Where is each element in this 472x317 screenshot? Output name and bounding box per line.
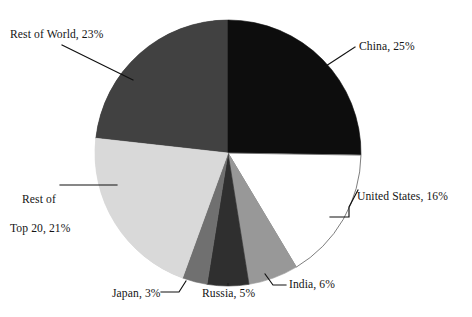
pie-label-rest-of-world: Rest of World, 23% bbox=[10, 28, 103, 43]
pie-label-russia: Russia, 5% bbox=[202, 287, 255, 302]
pie-label-rest-of-top-20: Rest of Top 20, 21% bbox=[10, 178, 71, 266]
leader-line-china bbox=[323, 47, 355, 68]
pie-slice-china[interactable] bbox=[228, 20, 361, 155]
pie-chart: Rest of World, 23% China, 25% United Sta… bbox=[0, 0, 472, 317]
leader-line-japan bbox=[161, 281, 186, 292]
pie-label-india: India, 6% bbox=[289, 278, 335, 293]
pie-slice-rest-of-world-body[interactable] bbox=[96, 20, 228, 153]
leader-line-rest-of-world bbox=[62, 45, 133, 80]
pie-label-rest-of-top-20-line2: Top 20, 21% bbox=[10, 222, 71, 237]
pie-label-united-states: United States, 16% bbox=[357, 190, 448, 205]
pie-label-rest-of-top-20-line1: Rest of bbox=[22, 193, 56, 206]
pie-label-china: China, 25% bbox=[359, 40, 415, 55]
pie-label-japan: Japan, 3% bbox=[112, 287, 161, 302]
